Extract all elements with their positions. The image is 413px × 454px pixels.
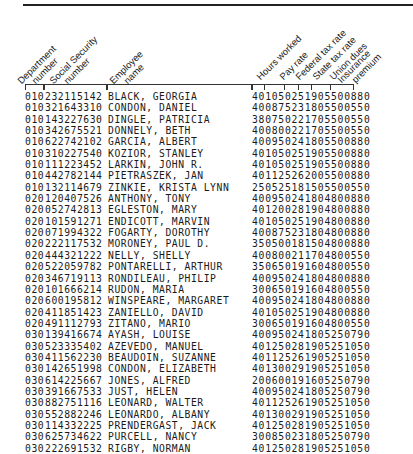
payroll-fields: 401050251904800880 bbox=[252, 307, 370, 318]
department-number: 020 bbox=[25, 284, 44, 295]
bracket-ssn bbox=[44, 84, 107, 90]
employee-name: CONDON, ELIZABETH bbox=[108, 363, 217, 374]
payroll-fields: 250525181505500550 bbox=[252, 182, 370, 193]
social-security-number: 444321222 bbox=[45, 250, 102, 261]
payroll-fields: 350650191604800550 bbox=[252, 261, 370, 272]
social-security-number: 411562230 bbox=[45, 352, 102, 363]
social-security-number: 600195812 bbox=[45, 295, 102, 306]
payroll-fields: 200600191605250790 bbox=[252, 375, 370, 386]
department-number: 010 bbox=[25, 125, 44, 136]
employee-name: DINGLE, PATRICIA bbox=[108, 114, 210, 125]
payroll-fields: 401250281905251050 bbox=[252, 443, 370, 454]
payroll-fields: 350500181504800880 bbox=[252, 238, 370, 249]
social-security-number: 132114679 bbox=[45, 182, 102, 193]
payroll-fields: 401050251904800880 bbox=[252, 216, 370, 227]
department-number: 010 bbox=[25, 159, 44, 170]
employee-name: PONTARELLI, ARTHUR bbox=[108, 261, 223, 272]
social-security-number: 622742102 bbox=[45, 136, 102, 147]
payroll-fields: 401200281904800880 bbox=[252, 204, 370, 215]
employee-name: PIETRASZEK, JAN bbox=[108, 170, 204, 181]
employee-name: JONES, ALFRED bbox=[108, 375, 191, 386]
payroll-fields: 400800221705500550 bbox=[252, 125, 370, 136]
payroll-fields: 300650191604800550 bbox=[252, 318, 370, 329]
employee-name: ZINKIE, KRISTA LYNN bbox=[108, 182, 229, 193]
department-number: 030 bbox=[25, 443, 44, 454]
department-number: 030 bbox=[25, 397, 44, 408]
department-number: 010 bbox=[25, 170, 44, 181]
employee-name: PURCELL, NANCY bbox=[108, 431, 197, 442]
social-security-number: 120407526 bbox=[45, 193, 102, 204]
employee-name: MORONEY, PAUL D. bbox=[108, 238, 210, 249]
payroll-fields: 400950241805500880 bbox=[252, 136, 370, 147]
social-security-number: 139416674 bbox=[45, 329, 102, 340]
department-number: 020 bbox=[25, 193, 44, 204]
department-number: 020 bbox=[25, 250, 44, 261]
payroll-fields: 401300291905251050 bbox=[252, 409, 370, 420]
employee-name: GARCIA, ALBERT bbox=[108, 136, 197, 147]
payroll-fields: 400950241804800880 bbox=[252, 273, 370, 284]
payroll-fields: 300650191604800550 bbox=[252, 284, 370, 295]
department-number: 020 bbox=[25, 238, 44, 249]
department-number: 030 bbox=[25, 431, 44, 442]
department-number: 020 bbox=[25, 318, 44, 329]
employee-name: DONNELY, BETH bbox=[108, 125, 191, 136]
department-number: 020 bbox=[25, 273, 44, 284]
department-number: 020 bbox=[25, 227, 44, 238]
department-number: 020 bbox=[25, 204, 44, 215]
social-security-number: 614225667 bbox=[45, 375, 102, 386]
social-security-number: 222117532 bbox=[45, 238, 102, 249]
department-number: 030 bbox=[25, 341, 44, 352]
bracket-pay bbox=[264, 84, 285, 90]
employee-name: AZEVEDO, MANUEL bbox=[108, 341, 204, 352]
payroll-fields: 401250281905251050 bbox=[252, 420, 370, 431]
social-security-number: 442782144 bbox=[45, 170, 102, 181]
social-security-number: 101666214 bbox=[45, 284, 102, 295]
department-number: 030 bbox=[25, 386, 44, 397]
employee-name: EGLESTON, MARY bbox=[108, 204, 197, 215]
employee-name: PRENDERGAST, JACK bbox=[108, 420, 217, 431]
bracket-insurance bbox=[330, 84, 354, 90]
department-number: 010 bbox=[25, 136, 44, 147]
department-number: 030 bbox=[25, 329, 44, 340]
payroll-fields: 400875231804800880 bbox=[252, 227, 370, 238]
payroll-fields: 380750221705500550 bbox=[252, 114, 370, 125]
social-security-number: 625734622 bbox=[45, 431, 102, 442]
department-number: 020 bbox=[25, 295, 44, 306]
employee-name: RUDON, MARIA bbox=[108, 284, 185, 295]
top-rule bbox=[23, 4, 413, 6]
employee-name: FOGARTY, DOROTHY bbox=[108, 227, 210, 238]
employee-name: ANTHONY, TONY bbox=[108, 193, 191, 204]
social-security-number: 391667533 bbox=[45, 386, 102, 397]
payroll-fields: 401125261905251050 bbox=[252, 352, 370, 363]
bracket-federal bbox=[284, 84, 299, 90]
social-security-number: 222691532 bbox=[45, 443, 102, 454]
bracket-union bbox=[311, 84, 331, 90]
payroll-fields: 401250281905251050 bbox=[252, 341, 370, 352]
employee-name: LARKIN, JOHN R. bbox=[108, 159, 204, 170]
employee-name: ZITANO, MARIO bbox=[108, 318, 191, 329]
social-security-number: 071994322 bbox=[45, 227, 102, 238]
department-number: 010 bbox=[25, 102, 44, 113]
employee-name: CONDON, DANIEL bbox=[108, 102, 197, 113]
social-security-number: 522059782 bbox=[45, 261, 102, 272]
employee-name: RIGBY, NORMAN bbox=[108, 443, 191, 454]
payroll-fields: 401050251905500880 bbox=[252, 159, 370, 170]
department-number: 030 bbox=[25, 352, 44, 363]
department-number: 010 bbox=[25, 148, 44, 159]
social-security-number: 114332225 bbox=[45, 420, 102, 431]
employee-name: NELLY, SHELLY bbox=[108, 250, 191, 261]
payroll-fields: 401125262005500880 bbox=[252, 170, 370, 181]
payroll-fields: 400950241804800880 bbox=[252, 295, 370, 306]
department-number: 020 bbox=[25, 307, 44, 318]
employee-name: AYASH, LOUISE bbox=[108, 329, 191, 340]
payroll-fields: 400800211704800550 bbox=[252, 250, 370, 261]
department-number: 020 bbox=[25, 216, 44, 227]
payroll-fields: 400950241804800880 bbox=[252, 193, 370, 204]
department-number: 010 bbox=[25, 182, 44, 193]
social-security-number: 142651998 bbox=[45, 363, 102, 374]
social-security-number: 882751116 bbox=[45, 397, 102, 408]
employee-name: JUST, HELEN bbox=[108, 386, 178, 397]
social-security-number: 143227630 bbox=[45, 114, 102, 125]
employee-name: BLACK, GEORGIA bbox=[108, 91, 197, 102]
payroll-fields: 400875231805500550 bbox=[252, 102, 370, 113]
